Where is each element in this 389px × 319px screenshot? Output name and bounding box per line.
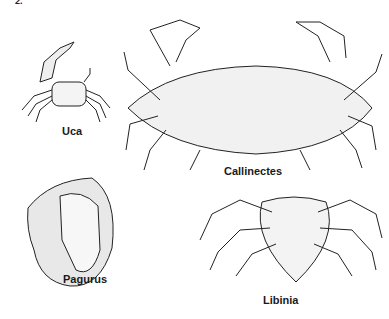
crab-illustrations [0, 0, 389, 319]
uca-drawing [22, 42, 110, 122]
callinectes-drawing [124, 20, 382, 170]
pagurus-drawing [28, 178, 114, 286]
label-libinia: Libinia [263, 294, 298, 306]
label-callinectes: Callinectes [224, 165, 282, 177]
label-pagurus: Pagurus [63, 273, 107, 285]
label-uca: Uca [62, 125, 82, 137]
libinia-drawing [200, 197, 382, 282]
